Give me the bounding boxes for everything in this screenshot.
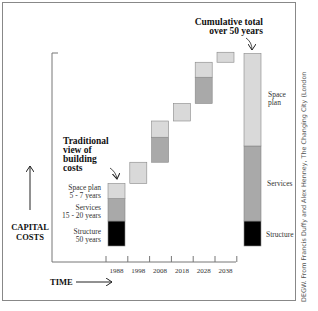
cumulative-bar [244,54,261,247]
cumulative-segment-structure [244,221,261,246]
cumulative-label-services: Services [267,179,292,188]
bar-2018-space-plan [173,104,190,122]
bars [108,52,234,246]
x-tick-label: 2038 [219,267,234,275]
bar-1998-space-plan [130,162,147,183]
annotation-traditional-arrow [110,168,117,179]
bar-1988-services [108,199,125,222]
bar-2008-space-plan [152,121,169,137]
x-tick-label: 2008 [153,267,168,275]
legend-services-2: 15 - 20 years [62,211,101,220]
bar-1988-structure [108,221,125,246]
bar-2028-space-plan [195,62,212,77]
bar-1988-space-plan [108,184,125,199]
x-tick-labels: 198819982008201820282038 [110,267,234,275]
annotation-cumulative-2: over 50 years [209,26,263,36]
cumulative-segment-services [244,146,261,221]
cumulative-segment-space-plan [244,54,261,147]
legend-space-plan-2: 5 - 7 years [70,191,102,200]
y-axis-label-line-1: CAPITAL [11,222,49,232]
legend-structure-2: 50 years [76,235,101,244]
y-axis-label-line-2: COSTS [16,232,44,242]
chart: 198819982008201820282038 CAPITAL COSTS T… [0,0,318,311]
annotation-cumulative-arrow [246,38,252,50]
annotation-traditional-4: costs [63,163,83,173]
x-tick-label: 1998 [131,267,146,275]
bar-2028-services [195,77,212,103]
figure-credit: DEGW. From Francis Duffy and Alex Henney… [300,72,308,302]
x-axis-label: TIME [50,277,73,287]
x-tick-label: 1988 [110,267,125,275]
x-tick-label: 2028 [197,267,212,275]
cumulative-label-space-plan-2: plan [268,98,281,107]
x-ticks [106,256,237,262]
x-tick-label: 2018 [175,267,190,275]
cumulative-label-structure: Structure [266,230,294,239]
bar-2038-space-plan [217,52,234,62]
bar-2008-services [152,137,169,162]
